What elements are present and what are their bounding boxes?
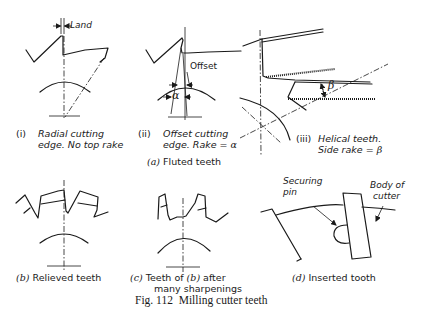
body-of-cutter-label-line2: cutter xyxy=(373,191,400,201)
securing-pin-label-line1: Securing xyxy=(283,176,323,186)
helical-hatch-upper xyxy=(266,69,335,77)
radial-tooth-profile xyxy=(26,36,108,62)
inserted-body-arc-right xyxy=(362,207,395,210)
sharpened-tooth-land-1 xyxy=(161,205,167,207)
offset-leader xyxy=(187,72,189,83)
sharpened-teeth-profile xyxy=(158,194,228,222)
caption-c-prefix: Teeth of xyxy=(146,272,187,283)
figure-title-text: Milling cutter teeth xyxy=(179,294,268,306)
helical-tooth-flank xyxy=(288,82,306,110)
sharpened-cutter-arc xyxy=(158,238,210,253)
figure-number: Fig. 112 xyxy=(135,294,173,306)
panel-b-relieved-teeth-drawing xyxy=(16,180,108,270)
caption-c-line2: many sharpenings xyxy=(154,283,242,294)
land-label: Land xyxy=(70,20,92,30)
offset-tooth-profile xyxy=(146,38,241,63)
caption-c-suffix: after xyxy=(200,272,226,283)
inserted-body-arc-left xyxy=(276,205,343,215)
caption-i-line2: edge. No top rake xyxy=(38,139,123,150)
sharpened-tooth-land-2 xyxy=(198,208,206,210)
caption-iii-beta: β xyxy=(377,144,383,155)
inserted-slot-bottom xyxy=(297,259,301,261)
inserted-tooth-blade xyxy=(343,193,371,259)
caption-ii-alpha: α xyxy=(231,139,237,150)
helical-cross-centerline xyxy=(242,107,281,143)
panel-c-sharpened-teeth-drawing xyxy=(158,194,228,272)
caption-a: (a) Fluted teeth xyxy=(147,156,221,167)
caption-i-line1: Radial cutting xyxy=(38,128,104,139)
relieved-teeth-profile xyxy=(16,190,108,218)
helical-vertical-centerline xyxy=(260,30,261,155)
caption-iii-numeral: (iii) xyxy=(296,133,311,144)
inserted-slot-left-wall xyxy=(261,209,301,259)
caption-iii-line2-text: Side rake = xyxy=(318,144,377,155)
caption-c: (c) Teeth of (b) after xyxy=(130,272,226,283)
figure-title: Fig. 112 Milling cutter teeth xyxy=(135,294,267,306)
caption-i-numeral: (i) xyxy=(16,128,26,139)
caption-iii-line1: Helical teeth. xyxy=(318,133,381,144)
panel-ii-offset-tooth-drawing xyxy=(146,27,241,120)
caption-iii-line2: Side rake = β xyxy=(318,144,382,155)
offset-cutter-arc xyxy=(158,88,215,100)
beta-label: β xyxy=(328,79,334,92)
helical-diagonal-centerline xyxy=(240,64,388,138)
caption-ii-line2: edge. Rake = α xyxy=(163,139,237,150)
relieved-tooth-stub xyxy=(24,208,30,213)
caption-d: (d) Inserted tooth xyxy=(292,272,376,283)
caption-a-text: Fluted teeth xyxy=(163,156,221,167)
caption-ii-line1: Offset cutting xyxy=(163,128,228,139)
relieved-tooth-land-2 xyxy=(78,203,97,206)
caption-d-text: Inserted tooth xyxy=(309,272,376,283)
relieved-tooth-land-1 xyxy=(41,200,65,204)
panel-i-radial-tooth-drawing xyxy=(26,18,108,118)
securing-pin-label-line2: pin xyxy=(283,187,297,197)
caption-b-text: Relieved teeth xyxy=(33,272,102,283)
caption-ii-line2-text: edge. Rake = xyxy=(163,139,231,150)
helical-cutter-arc xyxy=(240,98,290,140)
offset-rake-line-left xyxy=(171,48,181,114)
caption-b-letter: (b) xyxy=(16,272,30,283)
caption-c-letter: (c) xyxy=(130,272,143,283)
offset-label: Offset xyxy=(190,61,217,71)
caption-a-letter: (a) xyxy=(147,156,160,167)
body-of-cutter-label-line1: Body of xyxy=(370,180,404,190)
milling-cutter-teeth-figure: Land Offset α β Securing pin Body of cut… xyxy=(0,0,422,325)
alpha-label: α xyxy=(172,89,179,102)
panel-d-inserted-tooth-drawing xyxy=(261,193,395,261)
caption-b: (b) Relieved teeth xyxy=(16,272,101,283)
caption-ii-numeral: (ii) xyxy=(138,128,151,139)
helical-top-edge-left xyxy=(243,39,262,46)
securing-pin xyxy=(334,225,349,243)
securing-pin-leader xyxy=(313,206,336,225)
caption-d-letter: (d) xyxy=(292,272,306,283)
caption-c-ref: (b) xyxy=(187,272,201,283)
